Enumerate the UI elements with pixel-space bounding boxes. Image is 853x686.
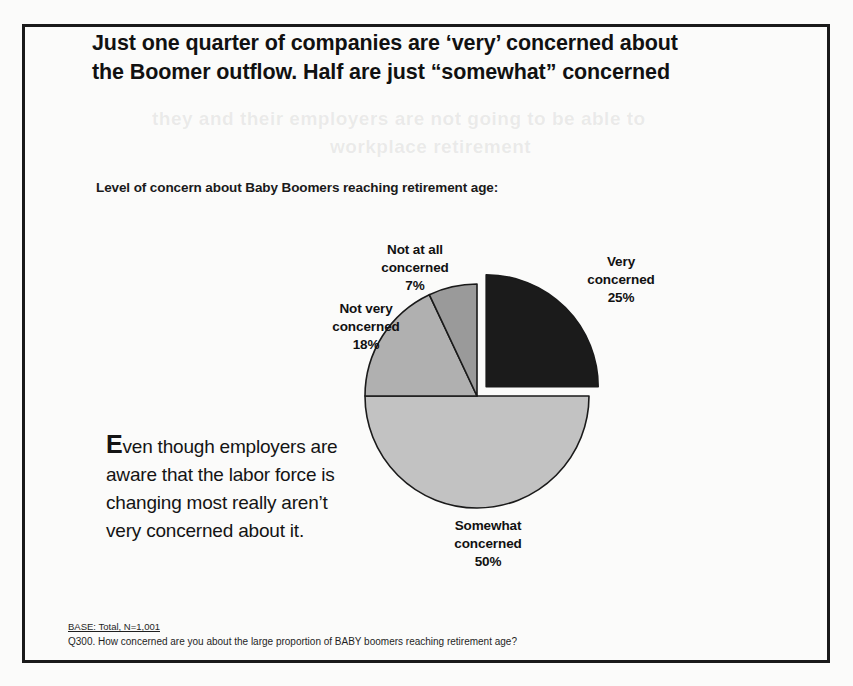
pie-label-not-very-concerned-line2: concerned [305, 318, 427, 336]
pie-label-very-concerned-line2: concerned [556, 271, 686, 289]
pie-label-not-very-concerned-line1: Not very [305, 300, 427, 318]
page-title: Just one quarter of companies are ‘very’… [92, 29, 752, 86]
footnote: BASE: Total, N=1,001 Q300. How concerned… [68, 620, 517, 649]
pie-value-very-concerned: 25% [556, 289, 686, 307]
pie-label-not-at-all-concerned: Not at all concerned 7% [355, 241, 475, 294]
pie-label-not-very-concerned: Not very concerned 18% [305, 300, 427, 353]
pie-label-somewhat-concerned-line2: concerned [408, 535, 568, 553]
chart-subtitle: Level of concern about Baby Boomers reac… [96, 180, 498, 195]
footnote-question: Q300. How concerned are you about the la… [68, 634, 517, 649]
commentary-dropcap: E [106, 430, 122, 458]
pie-value-not-very-concerned: 18% [305, 336, 427, 354]
pie-value-somewhat-concerned: 50% [408, 553, 568, 571]
page-title-line-1: Just one quarter of companies are ‘very’… [92, 29, 752, 58]
pie-label-somewhat-concerned-line1: Somewhat [408, 517, 568, 535]
scanned-page: they and their employers are not going t… [0, 0, 853, 686]
pie-slice-somewhat-concerned[interactable] [365, 396, 589, 508]
pie-label-not-at-all-concerned-line1: Not at all [355, 241, 475, 259]
footnote-base: BASE: Total, N=1,001 [68, 620, 517, 634]
page-title-line-2: the Boomer outflow. Half are just “somew… [92, 58, 752, 87]
pie-label-very-concerned: Very concerned 25% [556, 253, 686, 306]
pie-value-not-at-all-concerned: 7% [355, 277, 475, 295]
pie-label-very-concerned-line1: Very [556, 253, 686, 271]
pie-label-not-at-all-concerned-line2: concerned [355, 259, 475, 277]
pie-label-somewhat-concerned: Somewhat concerned 50% [408, 517, 568, 570]
